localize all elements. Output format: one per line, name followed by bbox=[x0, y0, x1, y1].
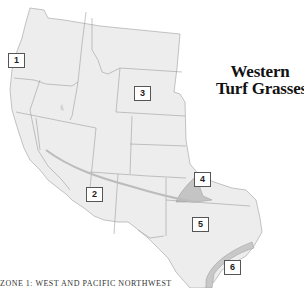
zone-5-label: 5 bbox=[192, 217, 209, 232]
western-states-landmass bbox=[10, 8, 262, 288]
western-us-map bbox=[0, 0, 304, 288]
zone-4-label: 4 bbox=[194, 172, 211, 187]
map-title: Western Turf Grasses bbox=[216, 63, 304, 97]
zone-2-label: 2 bbox=[86, 187, 103, 202]
title-line-2: Turf Grasses bbox=[216, 80, 304, 97]
zone-1-label: 1 bbox=[8, 53, 25, 68]
zone-caption: ZONE 1: WEST AND PACIFIC NORTHWEST bbox=[0, 279, 172, 288]
zone-3-label: 3 bbox=[134, 86, 151, 101]
zone-6-label: 6 bbox=[224, 260, 241, 275]
title-line-1: Western bbox=[216, 63, 304, 80]
